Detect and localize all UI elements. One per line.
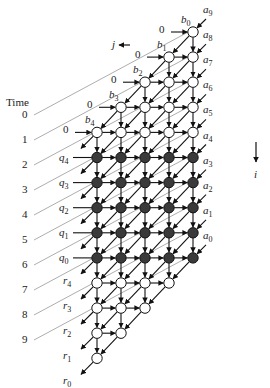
- a-label-8: a8: [203, 28, 213, 43]
- open-node: [92, 353, 102, 363]
- a-input-arrow: [197, 119, 206, 128]
- filled-node: [140, 228, 150, 238]
- a-input-arrow: [197, 19, 206, 28]
- filled-node: [188, 152, 198, 162]
- time-line-9: [34, 255, 192, 340]
- a-label-5: a5: [203, 103, 213, 118]
- edge-diagonal: [125, 262, 141, 279]
- filled-node: [116, 253, 126, 263]
- b-label-1: b1: [157, 38, 167, 53]
- r-label-4: r4: [63, 274, 71, 289]
- a-label-0: a0: [203, 229, 213, 244]
- zero-input-label: 0: [135, 48, 141, 60]
- filled-node: [164, 253, 174, 263]
- time-label-6: 6: [22, 258, 28, 270]
- edge-diagonal: [149, 186, 165, 203]
- q-output-arrow: [81, 136, 93, 148]
- r-label-0: r0: [63, 374, 71, 388]
- open-node: [140, 303, 150, 313]
- open-node: [164, 278, 174, 288]
- filled-node: [188, 228, 198, 238]
- open-node: [92, 328, 102, 338]
- a-label-2: a2: [203, 179, 213, 194]
- q-label-3: q3: [59, 176, 69, 191]
- b-label-0: b0: [181, 13, 191, 28]
- open-node: [116, 102, 126, 112]
- edge-diagonal: [149, 236, 165, 253]
- a-input-arrow: [197, 195, 206, 204]
- q-output-arrow: [81, 186, 93, 198]
- time-label-4: 4: [22, 208, 28, 220]
- r-label-1: r1: [63, 349, 71, 364]
- zero-input-label: 0: [111, 73, 117, 85]
- open-node: [116, 303, 126, 313]
- time-line-7: [34, 205, 192, 290]
- edge-diagonal: [149, 111, 165, 128]
- time-label-7: 7: [22, 283, 28, 295]
- edge-diagonal: [125, 287, 141, 304]
- edge-diagonal: [101, 111, 117, 128]
- open-node: [116, 278, 126, 288]
- a-label-1: a1: [203, 204, 213, 219]
- i-direction-label: i: [254, 168, 257, 180]
- edge-diagonal: [125, 211, 141, 228]
- open-node: [92, 278, 102, 288]
- q-output-arrow: [81, 211, 93, 223]
- edge-diagonal: [125, 236, 141, 253]
- edge-diagonal: [149, 211, 165, 228]
- open-node: [164, 127, 174, 137]
- edge-diagonal: [149, 136, 165, 153]
- q-label-2: q2: [59, 201, 69, 216]
- edge-diagonal: [149, 287, 165, 304]
- a-label-9: a9: [203, 3, 213, 18]
- open-node: [188, 27, 198, 37]
- r-label-3: r3: [63, 299, 71, 314]
- edge-diagonal: [173, 36, 189, 53]
- a-input-arrow: [197, 145, 206, 154]
- filled-node: [140, 152, 150, 162]
- time-line-8: [34, 230, 192, 315]
- edge-diagonal: [149, 86, 165, 103]
- edge-diagonal: [125, 111, 141, 128]
- time-label-2: 2: [22, 158, 28, 170]
- b-label-3: b3: [109, 88, 119, 103]
- open-node: [116, 127, 126, 137]
- q-output-arrow: [81, 236, 93, 248]
- filled-node: [188, 203, 198, 213]
- filled-node: [164, 177, 174, 187]
- j-direction-label: j: [110, 38, 115, 50]
- filled-node: [164, 203, 174, 213]
- edge-diagonal: [125, 161, 141, 178]
- edge-diagonal: [125, 86, 141, 103]
- time-label-3: 3: [22, 183, 28, 195]
- time-label-0: 0: [22, 108, 28, 120]
- open-node: [140, 127, 150, 137]
- b-label-2: b2: [133, 63, 143, 78]
- filled-node: [92, 228, 102, 238]
- open-node: [164, 52, 174, 62]
- filled-node: [116, 228, 126, 238]
- filled-node: [116, 152, 126, 162]
- a-label-7: a7: [203, 53, 213, 68]
- filled-node: [164, 228, 174, 238]
- open-node: [116, 328, 126, 338]
- time-title: Time: [6, 96, 29, 108]
- time-label-9: 9: [22, 333, 28, 345]
- open-node: [92, 127, 102, 137]
- open-node: [188, 127, 198, 137]
- a-input-arrow: [197, 69, 206, 78]
- time-label-1: 1: [22, 133, 28, 145]
- a-label-4: a4: [203, 129, 213, 144]
- zero-input-label: 0: [87, 98, 93, 110]
- edge-diagonal: [101, 287, 117, 304]
- edge-diagonal: [101, 136, 117, 153]
- edge-diagonal: [101, 211, 117, 228]
- zero-input-label: 0: [63, 123, 69, 135]
- open-node: [188, 52, 198, 62]
- filled-node: [92, 177, 102, 187]
- open-node: [164, 102, 174, 112]
- edge-diagonal: [125, 312, 141, 329]
- open-node: [140, 77, 150, 87]
- q-output-arrow: [81, 161, 93, 173]
- r-output-arrow: [81, 337, 93, 349]
